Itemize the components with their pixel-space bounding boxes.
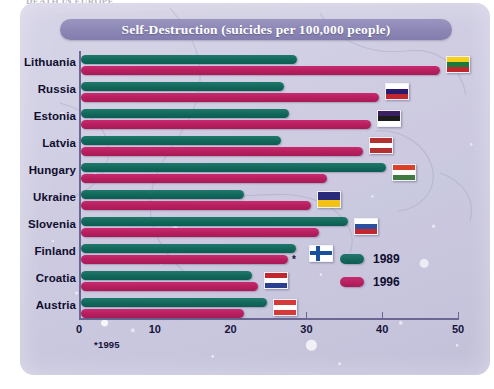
- flag-estonia: [377, 110, 401, 127]
- bar-row: Russia: [20, 80, 490, 107]
- flag-stripe: [355, 229, 377, 234]
- flag-stripe: [265, 283, 287, 288]
- flag-latvia: [369, 137, 393, 154]
- flag-austria: [273, 299, 297, 316]
- flag-hungary: [392, 164, 416, 181]
- x-axis-tick-label: 10: [149, 323, 161, 335]
- x-axis-tick-label: 40: [376, 323, 388, 335]
- flag-croatia: [264, 272, 288, 289]
- bar-1996: [81, 309, 244, 318]
- legend-item: 1989: [340, 250, 450, 267]
- category-label: Russia: [38, 83, 76, 95]
- flag-finland: [309, 245, 333, 262]
- bar-1996: [81, 255, 288, 264]
- flag-ukraine: [317, 191, 341, 208]
- bar-1996: [81, 66, 440, 75]
- flag-stripe: [274, 310, 296, 315]
- bar-row: Slovenia: [20, 215, 490, 242]
- bar-1996: [81, 93, 379, 102]
- bar-1989: [81, 163, 386, 172]
- category-label: Ukraine: [33, 191, 76, 203]
- flag-stripe: [447, 67, 469, 72]
- bar-row: Ukraine: [20, 188, 490, 215]
- bar-1989: [81, 244, 296, 253]
- chart-legend: 19891996: [340, 250, 450, 296]
- bar-1996: [81, 228, 319, 237]
- bar-1989: [81, 55, 297, 64]
- category-label: Finland: [34, 245, 76, 257]
- bar-row: Latvia: [20, 134, 490, 161]
- category-label: Hungary: [29, 164, 76, 176]
- category-label: Lithuania: [24, 56, 76, 68]
- bar-1989: [81, 298, 267, 307]
- bar-row: Austria: [20, 296, 490, 323]
- flag-lithuania: [446, 56, 470, 73]
- bar-row: Hungary: [20, 161, 490, 188]
- category-label: Croatia: [36, 272, 76, 284]
- bar-1996: [81, 201, 311, 210]
- plot-area: 01020304050 LithuaniaRussiaEstoniaLatvia…: [20, 3, 490, 375]
- flag-stripe: [370, 148, 392, 153]
- bar-1989: [81, 271, 252, 280]
- flag-slovenia: [354, 218, 378, 235]
- category-label: Slovenia: [28, 218, 76, 230]
- bar-1989: [81, 109, 289, 118]
- footnote-text: *1995: [94, 339, 120, 350]
- flag-stripe: [386, 94, 408, 99]
- chart-page: DEATH IN EUROPE Self-Destruction (suicid…: [0, 0, 494, 389]
- bar-1989: [81, 217, 348, 226]
- legend-label: 1989: [373, 252, 400, 266]
- flag-stripe: [393, 175, 415, 180]
- category-label: Austria: [36, 299, 76, 311]
- x-axis-tick-label: 0: [76, 323, 82, 335]
- flag-russia: [385, 83, 409, 100]
- flag-stripe: [318, 200, 340, 208]
- category-label: Estonia: [34, 110, 76, 122]
- bar-row: Lithuania: [20, 53, 490, 80]
- bar-1989: [81, 136, 281, 145]
- footnote-marker: *: [292, 255, 296, 264]
- bar-1996: [81, 147, 363, 156]
- flag-stripe: [378, 121, 400, 126]
- category-label: Latvia: [42, 137, 76, 149]
- bar-1996: [81, 174, 327, 183]
- bar-row: Estonia: [20, 107, 490, 134]
- bar-1996: [81, 282, 258, 291]
- legend-item: 1996: [340, 273, 450, 290]
- bar-1996: [81, 120, 371, 129]
- bar-1989: [81, 190, 244, 199]
- x-axis-tick-label: 50: [452, 323, 464, 335]
- bar-1989: [81, 82, 284, 91]
- legend-label: 1996: [373, 275, 400, 289]
- x-axis-tick-label: 30: [300, 323, 312, 335]
- flag-stripe: [318, 192, 340, 200]
- legend-swatch: [340, 254, 364, 264]
- legend-swatch: [340, 277, 364, 287]
- x-axis-tick-label: 20: [224, 323, 236, 335]
- chart-panel: Self-Destruction (suicides per 100,000 p…: [20, 3, 490, 375]
